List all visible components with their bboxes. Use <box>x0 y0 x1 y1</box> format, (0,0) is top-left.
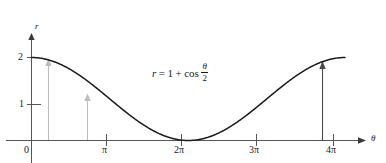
y-tick-label-1: 1 <box>19 99 24 109</box>
y-tick-label-2: 2 <box>18 52 23 62</box>
equation-annotation: r = 1 + cos θ 2 <box>152 62 208 83</box>
radius-arrow-3 <box>319 61 325 140</box>
radius-arrow-1 <box>45 59 51 141</box>
x-tick-label-4pi: 4π <box>326 145 336 155</box>
equation-equals: = <box>159 67 165 79</box>
y-axis-arrowhead <box>28 33 34 40</box>
equation-fraction: θ 2 <box>201 62 208 83</box>
radius-arrow-2 <box>84 94 90 141</box>
equation-term-one: 1 <box>168 67 174 79</box>
equation-lhs: r <box>152 67 156 79</box>
x-axis-arrowhead <box>358 137 366 143</box>
polar-function-figure: r θ 2 1 0 π 2π 3π 4π r = 1 + cos θ 2 <box>0 0 386 163</box>
fraction-denominator: 2 <box>201 74 208 83</box>
x-axis-label: θ <box>371 134 375 143</box>
y-axis-label: r <box>35 22 39 31</box>
y-axis-ticks <box>27 58 41 105</box>
x-tick-label-0: 0 <box>24 145 29 155</box>
x-tick-label-pi: π <box>102 145 107 155</box>
x-tick-label-3pi: 3π <box>249 145 259 155</box>
equation-plus: + <box>176 67 182 79</box>
fraction-numerator: θ <box>201 62 207 71</box>
x-tick-label-2pi: 2π <box>174 145 184 155</box>
equation-cos: cos <box>184 67 199 79</box>
